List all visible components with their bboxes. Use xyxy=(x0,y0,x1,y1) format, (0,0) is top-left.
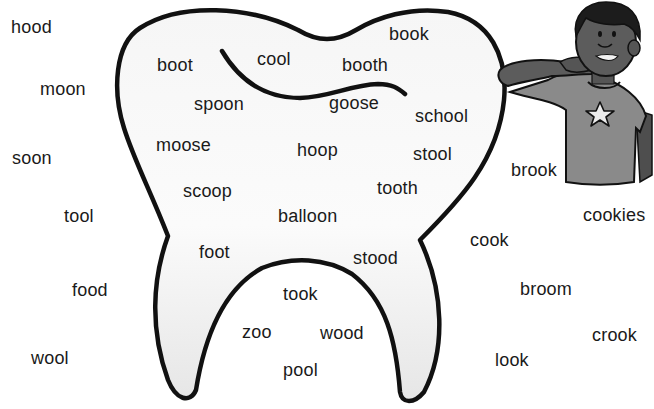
word-cook: cook xyxy=(470,231,509,249)
word-stool: stool xyxy=(413,145,452,163)
word-broom: broom xyxy=(520,280,572,298)
word-spoon: spoon xyxy=(194,95,244,113)
word-book: book xyxy=(389,25,429,43)
word-foot: foot xyxy=(199,243,230,261)
word-pool: pool xyxy=(283,361,318,379)
word-zoo: zoo xyxy=(242,323,272,341)
word-stood: stood xyxy=(353,249,398,267)
word-cool: cool xyxy=(257,50,291,68)
word-moon: moon xyxy=(40,80,86,98)
word-look: look xyxy=(495,351,529,369)
word-brook: brook xyxy=(511,161,557,179)
word-goose: goose xyxy=(329,94,379,112)
word-tool: tool xyxy=(64,207,94,225)
word-school: school xyxy=(415,107,468,125)
word-wood: wood xyxy=(320,324,364,342)
word-hood: hood xyxy=(11,18,52,36)
word-scoop: scoop xyxy=(183,182,232,200)
word-wool: wool xyxy=(31,349,69,367)
word-hoop: hoop xyxy=(297,141,338,159)
word-moose: moose xyxy=(156,136,211,154)
word-crook: crook xyxy=(592,326,637,344)
word-soon: soon xyxy=(12,149,52,167)
word-boot: boot xyxy=(157,56,193,74)
word-balloon: balloon xyxy=(278,207,337,225)
word-tooth: tooth xyxy=(377,179,418,197)
boy-brushing-teeth-icon xyxy=(0,0,654,409)
word-cookies: cookies xyxy=(583,206,645,224)
word-took: took xyxy=(283,285,318,303)
word-food: food xyxy=(72,281,108,299)
worksheet-canvas: book cool boot booth spoon goose school … xyxy=(0,0,654,409)
word-booth: booth xyxy=(342,56,388,74)
